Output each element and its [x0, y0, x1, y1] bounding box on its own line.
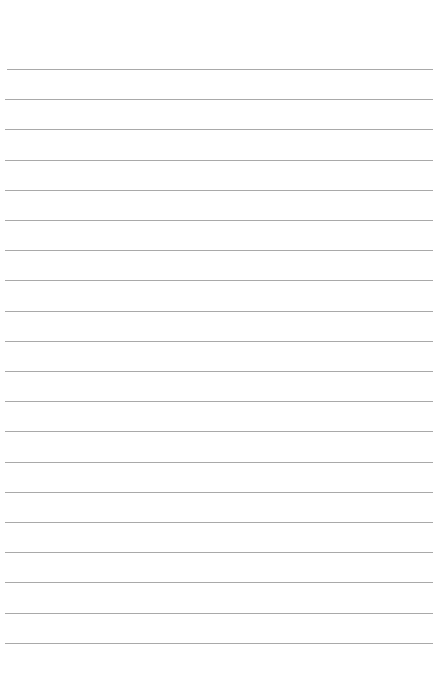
ruled-line [5, 371, 433, 372]
ruled-line [5, 99, 433, 100]
ruled-line [5, 552, 433, 553]
ruled-line [5, 341, 433, 342]
ruled-line [5, 190, 433, 191]
ruled-line [5, 401, 433, 402]
ruled-line [5, 280, 433, 281]
ruled-line [5, 643, 433, 644]
ruled-line [7, 69, 433, 70]
ruled-line [5, 250, 433, 251]
lined-paper-page [0, 0, 435, 687]
ruled-line [5, 492, 433, 493]
ruled-line [5, 462, 433, 463]
ruled-line [5, 431, 433, 432]
ruled-line [5, 129, 433, 130]
ruled-line [5, 220, 433, 221]
ruled-line [5, 582, 433, 583]
ruled-line [5, 613, 433, 614]
ruled-line [5, 311, 433, 312]
ruled-line [5, 522, 433, 523]
ruled-line [5, 160, 433, 161]
